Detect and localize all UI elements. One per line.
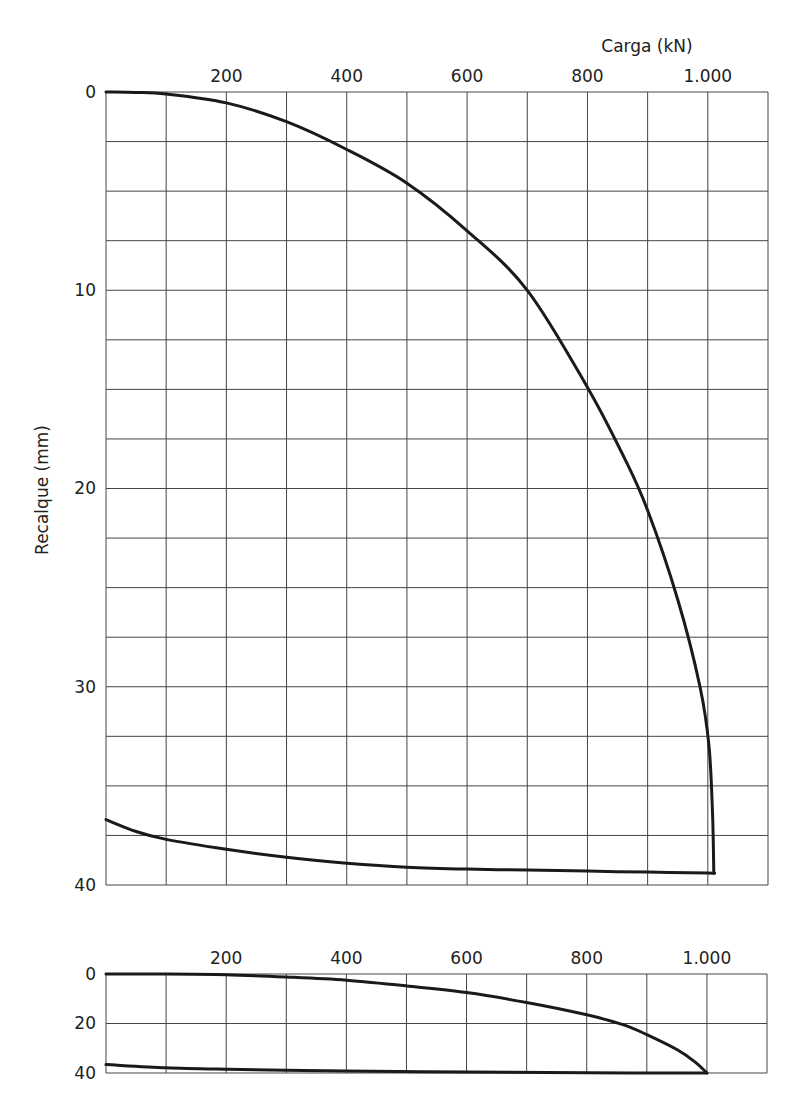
small-x-tick-labels: 2004006008001.000 bbox=[210, 948, 731, 968]
y-tick-label: 10 bbox=[74, 280, 96, 300]
y-tick-label: 0 bbox=[85, 964, 96, 984]
y-tick-label: 40 bbox=[74, 1063, 96, 1083]
compressed-load-settlement-chart: 2004006008001.000 02040 bbox=[74, 948, 767, 1083]
small-y-tick-labels: 02040 bbox=[74, 964, 96, 1083]
main-series bbox=[106, 92, 715, 873]
y-tick-label: 20 bbox=[74, 1013, 96, 1033]
main-x-tick-labels: 2004006008001.000 bbox=[210, 66, 732, 86]
x-tick-label: 800 bbox=[571, 66, 603, 86]
y-tick-label: 30 bbox=[74, 677, 96, 697]
series-carregamento bbox=[106, 92, 714, 873]
x-tick-label: 600 bbox=[451, 66, 483, 86]
chart-canvas: 2004006008001.000 010203040 Carga (kN) R… bbox=[0, 0, 801, 1113]
x-tick-label: 1.000 bbox=[683, 948, 732, 968]
x-tick-label: 600 bbox=[450, 948, 482, 968]
x-tick-label: 400 bbox=[331, 66, 363, 86]
x-tick-label: 400 bbox=[330, 948, 362, 968]
y-tick-label: 0 bbox=[85, 82, 96, 102]
y-tick-label: 40 bbox=[74, 875, 96, 895]
series-descarregamento bbox=[106, 820, 715, 874]
y-axis-title: Recalque (mm) bbox=[32, 425, 52, 555]
main-grid bbox=[106, 92, 768, 885]
y-tick-label: 20 bbox=[74, 478, 96, 498]
x-tick-label: 200 bbox=[210, 948, 242, 968]
chart-figure: 2004006008001.000 010203040 Carga (kN) R… bbox=[0, 0, 801, 1113]
x-tick-label: 1.000 bbox=[683, 66, 732, 86]
main-load-settlement-chart: 2004006008001.000 010203040 Carga (kN) R… bbox=[32, 36, 768, 895]
x-tick-label: 800 bbox=[571, 948, 603, 968]
x-tick-label: 200 bbox=[210, 66, 242, 86]
main-y-tick-labels: 010203040 bbox=[74, 82, 96, 895]
x-axis-title: Carga (kN) bbox=[601, 36, 692, 56]
